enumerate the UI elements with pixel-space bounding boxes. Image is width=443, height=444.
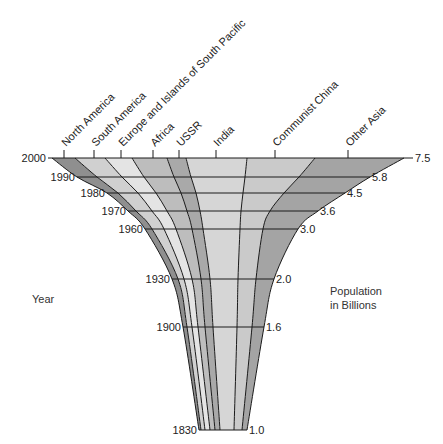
region-label: USSR (174, 118, 204, 148)
population-label: 7.5 (415, 152, 430, 164)
population-label: 1.6 (266, 321, 281, 333)
year-label: 1900 (157, 321, 181, 333)
population-label: 1.0 (249, 424, 264, 436)
year-label: 1830 (173, 424, 197, 436)
region-label: India (211, 122, 237, 148)
region-label: Communist China (270, 77, 341, 148)
year-label: 1980 (81, 187, 105, 199)
year-label: 1990 (51, 171, 75, 183)
year-axis-title: Year (32, 293, 55, 305)
population-funnel-chart: North AmericaSouth AmericaEurope and Isl… (0, 0, 443, 444)
year-label: 1930 (146, 273, 170, 285)
population-label: 3.0 (300, 223, 315, 235)
population-axis-title-line1: Population (330, 285, 382, 297)
year-label: 2000 (22, 152, 46, 164)
population-label: 5.8 (372, 171, 387, 183)
region-ticks (64, 150, 348, 158)
population-label: 3.6 (320, 205, 335, 217)
region-label: Other Asia (343, 103, 388, 148)
population-label: 4.5 (347, 187, 362, 199)
region-labels: North AmericaSouth AmericaEurope and Isl… (59, 16, 388, 148)
population-label: 2.0 (276, 273, 291, 285)
region-label: Africa (148, 119, 177, 148)
population-axis-title-line2: in Billions (330, 299, 377, 311)
year-label: 1960 (119, 223, 143, 235)
year-label: 1970 (102, 205, 126, 217)
